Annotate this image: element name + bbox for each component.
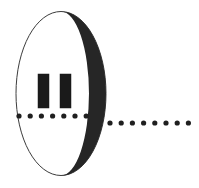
trajectory-dot (152, 120, 157, 125)
trajectory-dot (84, 113, 89, 118)
trajectory-dot (175, 120, 180, 125)
trajectory-dot (119, 120, 124, 125)
trajectory-dot (50, 113, 55, 118)
trajectory-dot (72, 113, 77, 118)
trajectory-dot (107, 120, 112, 125)
trajectory-dot (186, 120, 191, 125)
double-slit-diagram (0, 0, 199, 188)
trajectory-dot (141, 120, 146, 125)
trajectory-dot (16, 113, 21, 118)
trajectory-dot (39, 113, 44, 118)
slit-left (38, 74, 49, 108)
slit-right (60, 74, 71, 108)
trajectory-dot (61, 113, 66, 118)
figure-root (0, 0, 199, 188)
trajectory-dot (130, 120, 135, 125)
trajectory-dot (163, 120, 168, 125)
trajectory-dot (28, 113, 33, 118)
